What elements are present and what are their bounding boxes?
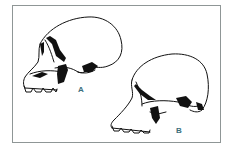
skull-a-label: A	[78, 86, 84, 94]
skull-a-shading	[32, 36, 98, 84]
skull-b-label: B	[176, 127, 182, 135]
skulls-illustration	[0, 0, 232, 151]
skull-a-drawing	[24, 17, 122, 92]
skull-b-shading	[134, 84, 204, 124]
skull-b-drawing	[111, 54, 208, 133]
